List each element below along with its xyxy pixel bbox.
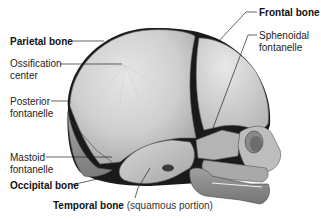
label-parietal-bone: Parietal bone <box>10 36 73 48</box>
label-sphenoidal-fontanelle-line1: Sphenoidal <box>259 30 309 42</box>
label-ossification-center-line1: Ossification <box>10 58 62 70</box>
skull-diagram: Parietal bone Ossification center Poster… <box>0 0 321 219</box>
label-sphenoidal-fontanelle-line2: fontanelle <box>259 42 302 54</box>
label-posterior-fontanelle-line2: fontanelle <box>10 108 53 120</box>
frontal-bone-shape <box>196 38 268 132</box>
label-temporal-bone: Temporal bone (squamous portion) <box>53 200 213 212</box>
label-temporal-bone-note: (squamous portion) <box>127 200 213 211</box>
label-temporal-bone-name: Temporal bone <box>53 200 124 211</box>
label-frontal-bone: Frontal bone <box>259 7 320 19</box>
label-mastoid-fontanelle-line1: Mastoid <box>10 152 45 164</box>
label-posterior-fontanelle-line1: Posterior <box>10 96 50 108</box>
label-ossification-center-line2: center <box>10 70 38 82</box>
label-occipital-bone: Occipital bone <box>10 180 79 192</box>
label-mastoid-fontanelle-line2: fontanelle <box>10 164 53 176</box>
